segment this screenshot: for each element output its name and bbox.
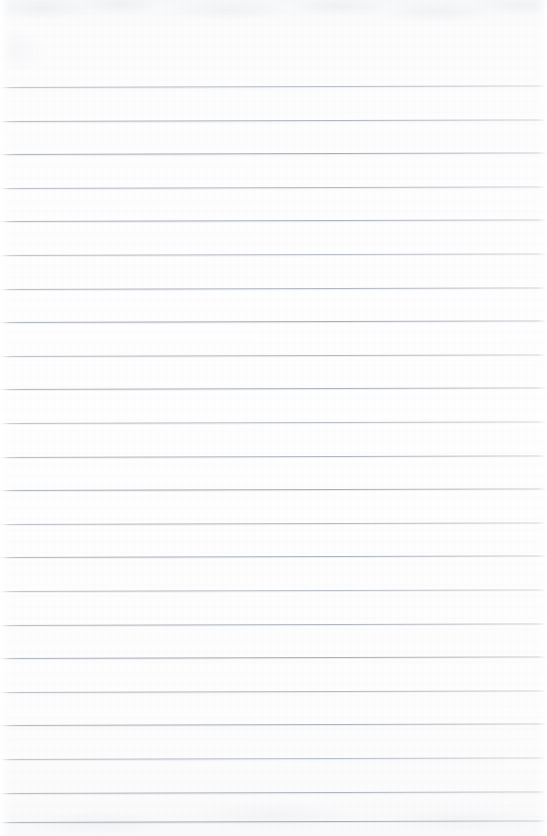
rule-line bbox=[0, 820, 547, 823]
rule-line bbox=[0, 690, 547, 693]
rule-line bbox=[0, 354, 547, 357]
rule-line bbox=[0, 455, 547, 458]
rule-line bbox=[0, 253, 547, 256]
rule-line bbox=[0, 287, 547, 290]
rule-line bbox=[0, 556, 547, 559]
rule-line bbox=[0, 119, 547, 122]
rule-line bbox=[0, 757, 547, 760]
rule-line bbox=[0, 85, 547, 88]
rule-line bbox=[0, 724, 547, 727]
rule-line bbox=[0, 589, 547, 592]
rule-line bbox=[0, 791, 547, 794]
rule-line bbox=[0, 186, 547, 189]
rule-line bbox=[0, 153, 547, 156]
rule-line bbox=[0, 657, 547, 660]
scanned-page bbox=[0, 0, 547, 836]
ruled-lines-layer bbox=[0, 0, 547, 836]
rule-line bbox=[0, 388, 547, 391]
rule-line bbox=[0, 220, 547, 223]
rule-line bbox=[0, 489, 547, 492]
rule-line bbox=[0, 623, 547, 626]
rule-line bbox=[0, 421, 547, 424]
rule-line bbox=[0, 321, 547, 324]
rule-line bbox=[0, 522, 547, 525]
